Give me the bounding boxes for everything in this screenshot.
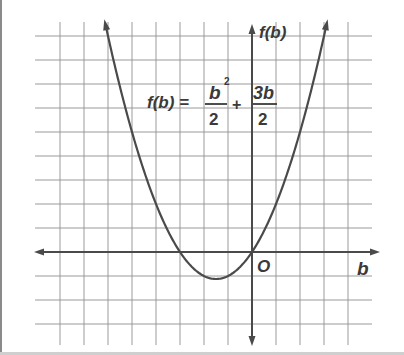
- term1-exponent: 2: [224, 76, 230, 87]
- left-border: [0, 0, 2, 355]
- y-axis-down-arrow-icon: [249, 336, 256, 346]
- grid-lines: [35, 22, 372, 345]
- term2-numerator: 3b: [253, 83, 274, 103]
- y-axis-label: f(b): [259, 23, 287, 42]
- term1-numerator: b: [209, 82, 221, 103]
- y-axis: [249, 24, 256, 346]
- term1-denominator: 2: [209, 110, 218, 129]
- x-axis-label: b: [357, 258, 369, 279]
- graph-figure: f(b) b O f(b) = b 2 2 + 3b 2: [0, 0, 404, 355]
- term2-denominator: 2: [258, 110, 267, 129]
- x-axis-right-arrow-icon: [370, 249, 380, 256]
- origin-label: O: [257, 257, 270, 276]
- curve-right-arrow-icon: [322, 19, 329, 30]
- x-axis-left-arrow-icon: [34, 249, 44, 256]
- parabola-curve: [106, 25, 327, 279]
- equation-operator: +: [232, 96, 241, 113]
- equation-lhs: f(b) =: [147, 93, 189, 112]
- curve-left-arrow-icon: [103, 19, 110, 30]
- y-axis-up-arrow-icon: [249, 24, 256, 34]
- x-axis: [34, 249, 380, 256]
